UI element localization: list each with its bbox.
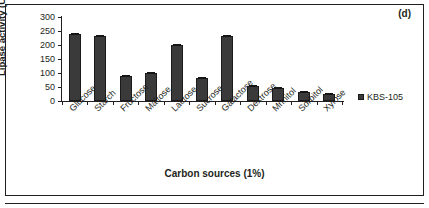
- bar-error-cap: [122, 75, 130, 77]
- x-axis-tick: [189, 101, 190, 105]
- x-axis-tick: [266, 101, 267, 105]
- y-axis-tick: [58, 31, 62, 32]
- y-axis-tick-label: 0: [50, 97, 55, 106]
- y-axis-tick-label: 100: [40, 69, 55, 78]
- y-axis-tick: [58, 59, 62, 60]
- y-axis-title: Lipase activity (U/ml): [0, 0, 7, 76]
- plot-area: 300250200150100500: [62, 17, 342, 101]
- x-axis-tick: [342, 101, 343, 105]
- bar-error-cap: [198, 77, 206, 79]
- x-axis-tick: [240, 101, 241, 105]
- panel-label: (d): [398, 8, 411, 19]
- x-axis-tick: [138, 101, 139, 105]
- x-axis-tick: [215, 101, 216, 105]
- figure-panel: (d) Lipase activity (U/ml) 3002502001501…: [0, 0, 429, 208]
- y-axis-tick-label: 300: [40, 13, 55, 22]
- figure-bottom-rule: [5, 203, 424, 204]
- legend: KBS-105: [358, 92, 403, 102]
- y-axis-tick: [58, 87, 62, 88]
- bar-error-cap: [71, 33, 79, 35]
- x-axis-title: Carbon sources (1%): [0, 168, 429, 179]
- x-axis-tick: [62, 101, 63, 105]
- x-axis-tick: [317, 101, 318, 105]
- bar-error-cap: [223, 35, 231, 37]
- x-axis-tick: [164, 101, 165, 105]
- y-axis-tick: [58, 73, 62, 74]
- bar-error-cap: [300, 91, 308, 93]
- legend-label: KBS-105: [367, 92, 403, 102]
- y-axis-tick-label: 50: [45, 83, 55, 92]
- bar: [171, 45, 183, 101]
- bar-error-cap: [173, 44, 181, 46]
- y-axis-tick-label: 150: [40, 55, 55, 64]
- y-axis-tick-label: 250: [40, 27, 55, 36]
- x-axis-tick: [87, 101, 88, 105]
- y-axis-tick-label: 200: [40, 41, 55, 50]
- y-axis-tick: [58, 17, 62, 18]
- bar-error-cap: [147, 72, 155, 74]
- bar: [69, 34, 81, 101]
- x-axis-tick: [113, 101, 114, 105]
- bar-error-cap: [96, 35, 104, 37]
- legend-square-marker-icon: [358, 94, 364, 100]
- y-axis-tick: [58, 45, 62, 46]
- x-axis-tick: [291, 101, 292, 105]
